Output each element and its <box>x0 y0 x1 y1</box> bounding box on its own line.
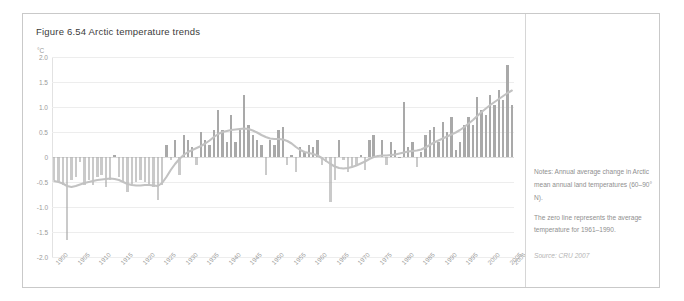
figure-root: Figure 6.54 Arctic temperature trends °C… <box>0 0 684 301</box>
y-tick-label: 0 <box>44 154 48 161</box>
y-tick-label: -2.0 <box>37 254 48 261</box>
trend-line <box>52 57 514 257</box>
y-tick-label: -0.5 <box>37 179 48 186</box>
notes-block: Notes: Annual average change in Arctic m… <box>534 166 654 244</box>
y-tick-label: -1.0 <box>37 204 48 211</box>
figure-title: Figure 6.54 Arctic temperature trends <box>36 26 200 37</box>
y-tick-label: 1.5 <box>39 79 48 86</box>
x-axis-ticks: 1900190519101915192019251930193519401945… <box>52 259 514 299</box>
y-tick-label: -1.5 <box>37 229 48 236</box>
chart-plot-area <box>52 57 514 257</box>
notes-line-1: Notes: Annual average change in Arctic m… <box>534 166 654 205</box>
y-tick-label: 1.0 <box>39 104 48 111</box>
y-tick-label: 0.5 <box>39 129 48 136</box>
y-tick-label: 2.0 <box>39 54 48 61</box>
source-label: Source: CRU 2007 <box>534 252 589 259</box>
y-axis-ticks: 2.01.51.00.50-0.5-1.0-1.5-2.0 <box>28 57 48 257</box>
notes-line-2: The zero line represents the average tem… <box>534 212 654 238</box>
side-panel-divider <box>525 14 526 287</box>
